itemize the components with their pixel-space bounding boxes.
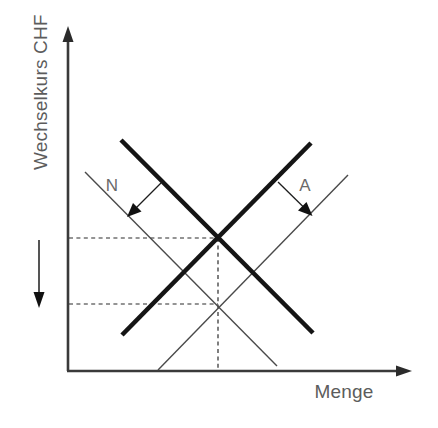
- diagram-figure: Wechselkurs CHF Menge N A: [0, 0, 438, 428]
- shift-arrow-demand: [127, 183, 161, 217]
- demand-curve-label: N: [106, 176, 118, 195]
- supply-curve-label: A: [299, 176, 311, 195]
- arrow-right-icon: [396, 366, 412, 377]
- original-curves-group: [85, 172, 348, 370]
- arrow-up-icon: [63, 26, 74, 42]
- arrow-down-icon: [34, 292, 45, 308]
- diagram-canvas: Wechselkurs CHF Menge N A: [0, 0, 438, 428]
- demand-shift-arrow-shaft: [134, 183, 162, 211]
- x-axis-label: Menge: [314, 381, 373, 402]
- exchange-rate-decline-arrow: [34, 240, 45, 308]
- y-axis-label: Wechselkurs CHF: [30, 14, 51, 170]
